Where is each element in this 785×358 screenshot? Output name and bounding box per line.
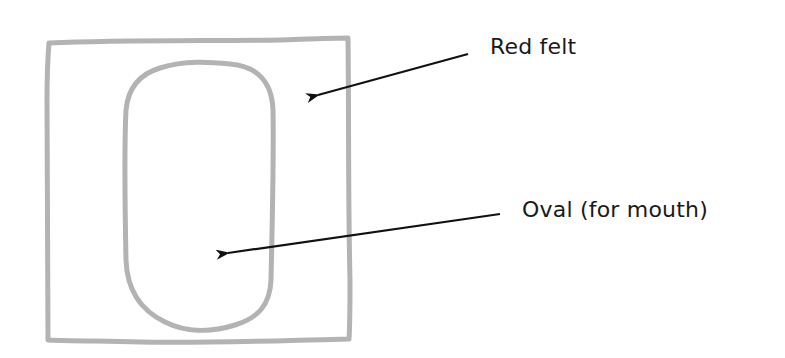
outer-square-outline xyxy=(47,38,350,342)
oval-mouth-label: Oval (for mouth) xyxy=(522,199,708,221)
oval-arrow xyxy=(228,214,500,253)
diagram-canvas xyxy=(0,0,785,358)
inner-oval-outline xyxy=(125,62,273,330)
red-felt-arrow xyxy=(318,54,468,95)
red-felt-label: Red felt xyxy=(490,36,576,58)
